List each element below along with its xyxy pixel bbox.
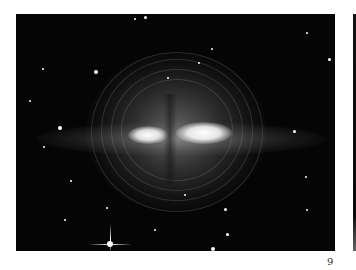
star: [106, 207, 108, 209]
star: [43, 146, 45, 148]
star: [42, 68, 44, 70]
star: [305, 176, 307, 178]
star: [94, 70, 98, 74]
star-flare: [110, 224, 111, 251]
page-number: 9: [327, 256, 333, 267]
star: [198, 62, 200, 64]
star: [328, 58, 331, 61]
star: [306, 209, 308, 211]
star: [64, 219, 66, 221]
nebula-photo: [16, 14, 335, 251]
star: [293, 130, 296, 133]
star: [144, 16, 147, 19]
star: [134, 18, 136, 20]
star: [306, 32, 308, 34]
nebula-left-lobe: [128, 126, 168, 144]
nebula-dust-lane: [163, 94, 177, 184]
star: [154, 229, 156, 231]
star: [167, 77, 169, 79]
star: [58, 126, 62, 130]
nebula-right-lobe: [176, 122, 232, 144]
star: [211, 247, 215, 251]
star: [184, 194, 186, 196]
star: [224, 208, 227, 211]
star: [226, 233, 229, 236]
star: [29, 100, 31, 102]
star: [211, 48, 213, 50]
star: [70, 180, 72, 182]
